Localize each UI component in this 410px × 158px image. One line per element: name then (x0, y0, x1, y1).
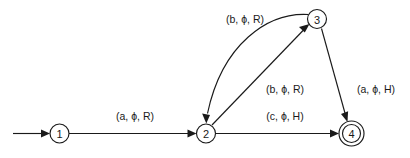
start-arrow-head (41, 130, 50, 138)
transition-label-3-to-4: (a, ϕ, H) (357, 83, 395, 95)
state-3-label: 3 (314, 14, 320, 26)
transition-label-2-to-3: (b, ϕ, R) (266, 83, 304, 95)
transition-3-to-4-line (322, 29, 346, 116)
state-node-2[interactable]: 2 (197, 124, 216, 143)
transition-1-to-2[interactable] (69, 130, 197, 138)
transition-3-to-2-curve (208, 14, 309, 113)
state-node-3[interactable]: 3 (308, 10, 327, 29)
transition-label-3-to-2: (b, ϕ, R) (226, 13, 264, 25)
start-arrow (13, 130, 50, 138)
state-node-4[interactable]: 4 (339, 121, 364, 146)
state-2-label: 2 (203, 128, 209, 140)
fsm-canvas: 1 2 3 4 (a, ϕ, R) (b, ϕ, R) (b, ϕ, R) (a… (0, 0, 410, 158)
transition-3-to-4[interactable] (322, 29, 349, 123)
transition-2-to-4[interactable] (216, 130, 340, 138)
transition-3-to-2[interactable] (202, 14, 308, 123)
transition-label-2-to-4: (c, ϕ, H) (266, 110, 303, 122)
fsm-diagram: 1 2 3 4 (a, ϕ, R) (b, ϕ, R) (b, ϕ, R) (a… (0, 0, 410, 158)
transition-2-to-4-arrowhead (330, 130, 339, 138)
state-node-1[interactable]: 1 (50, 124, 69, 143)
transition-3-to-4-arrowhead (341, 111, 348, 122)
state-1-label: 1 (56, 128, 62, 140)
transition-1-to-2-arrowhead (188, 130, 197, 138)
transition-2-to-3-arrowhead (299, 24, 310, 33)
transition-label-1-to-2: (a, ϕ, R) (116, 110, 154, 122)
state-4-label: 4 (348, 128, 354, 140)
transition-3-to-2-arrowhead (202, 113, 210, 123)
